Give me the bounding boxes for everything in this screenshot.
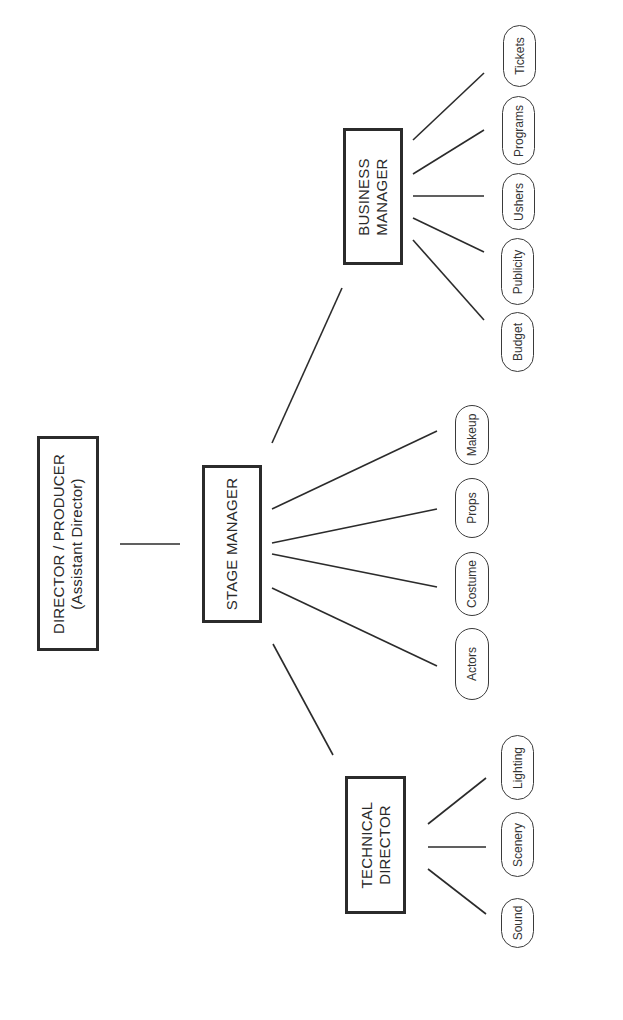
programs-label: Programs	[512, 104, 526, 156]
node-props: Props	[455, 478, 489, 538]
connector-business-budget	[413, 240, 484, 320]
node-actors: Actors	[455, 628, 489, 700]
makeup-label: Makeup	[465, 414, 479, 457]
director-title: DIRECTOR / PRODUCER	[50, 453, 68, 633]
business-manager-line2: MANAGER	[373, 158, 391, 235]
assistant-director-subtitle: (Assistant Director)	[68, 453, 86, 633]
business-manager-line1: BUSINESS	[355, 158, 373, 235]
business-manager-box: BUSINESS MANAGER	[343, 128, 403, 265]
connector-technical-sound	[428, 869, 486, 914]
connector-business-tickets	[413, 73, 484, 140]
ushers-label: Ushers	[512, 182, 526, 220]
node-lighting: Lighting	[501, 735, 534, 800]
connector-stage-actors	[272, 588, 437, 666]
budget-label: Budget	[511, 323, 525, 361]
connector-business-publicity	[413, 218, 484, 252]
node-budget: Budget	[501, 312, 534, 372]
connector-stage-technical	[273, 644, 333, 755]
lighting-label: Lighting	[511, 746, 525, 788]
costume-label: Costume	[465, 560, 479, 608]
publicity-label: Publicity	[511, 249, 525, 294]
org-chart: DIRECTOR / PRODUCER (Assistant Director)…	[0, 0, 623, 1020]
props-label: Props	[465, 492, 479, 523]
technical-director-label: TECHNICAL DIRECTOR	[358, 802, 394, 889]
sound-label: Sound	[511, 906, 525, 941]
node-sound: Sound	[501, 898, 534, 948]
scenery-label: Scenery	[511, 822, 525, 866]
node-scenery: Scenery	[501, 812, 534, 877]
stage-manager-title: STAGE MANAGER	[223, 478, 241, 610]
business-manager-label: BUSINESS MANAGER	[355, 158, 391, 235]
node-ushers: Ushers	[502, 173, 535, 230]
node-costume: Costume	[455, 552, 489, 616]
node-publicity: Publicity	[501, 238, 534, 305]
connector-stage-props	[272, 509, 437, 543]
actors-label: Actors	[465, 647, 479, 681]
tickets-label: Tickets	[513, 37, 527, 75]
node-programs: Programs	[502, 96, 535, 165]
node-tickets: Tickets	[503, 25, 536, 87]
technical-director-line2: DIRECTOR	[376, 802, 394, 889]
connector-stage-costume	[272, 554, 437, 587]
stage-manager-box: STAGE MANAGER	[202, 465, 262, 623]
connector-technical-lighting	[428, 778, 486, 824]
stage-manager-label: STAGE MANAGER	[223, 478, 241, 610]
node-makeup: Makeup	[455, 405, 489, 465]
technical-director-box: TECHNICAL DIRECTOR	[345, 776, 406, 914]
connector-stage-business	[272, 288, 342, 443]
technical-director-line1: TECHNICAL	[358, 802, 376, 889]
connector-business-programs	[413, 130, 484, 174]
director-producer-label: DIRECTOR / PRODUCER (Assistant Director)	[50, 453, 86, 633]
connector-stage-makeup	[272, 431, 437, 509]
director-producer-box: DIRECTOR / PRODUCER (Assistant Director)	[37, 436, 99, 651]
